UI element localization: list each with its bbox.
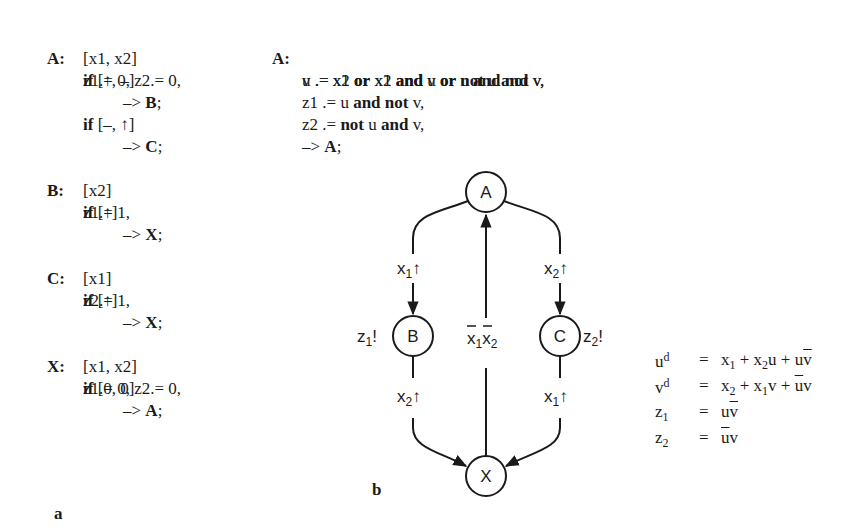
edge-b-to-x-arrow — [413, 418, 466, 466]
edge-label-x2-up: x2↑ — [544, 259, 568, 281]
edge-c-to-x-arrow — [506, 418, 560, 466]
edge-label-x1-up: x1↑ — [397, 259, 421, 281]
output-z2: z2! — [583, 327, 603, 349]
node-a-label: A — [480, 183, 492, 202]
edge-a-to-c — [504, 201, 560, 254]
edge-a-to-b — [413, 201, 468, 254]
edge-label-x1-up: x1↑ — [544, 387, 568, 409]
state-graph: A B C X x1↑ x2↑ x2↑ x1↑ x1x2 z1! z2! — [0, 0, 860, 530]
edge-label-x2-up: x2↑ — [397, 387, 421, 409]
edge-label-not-x1-not-x2: x1x2 — [467, 326, 498, 351]
node-b-label: B — [407, 327, 418, 346]
svg-text:x1x2: x1x2 — [467, 329, 498, 351]
node-c-label: C — [554, 327, 566, 346]
output-z1: z1! — [357, 327, 377, 349]
node-x-label: X — [480, 467, 491, 486]
